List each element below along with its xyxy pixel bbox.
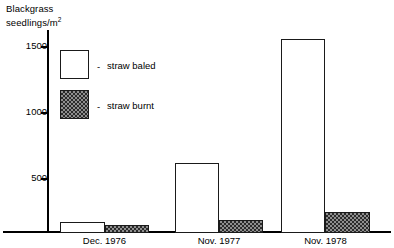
legend-dash: - [97, 62, 100, 72]
legend-label-straw-baled: straw baled [107, 60, 156, 71]
x-category-label-dec-1976: Dec. 1976 [60, 235, 149, 246]
bar-burnt-nov-1977 [219, 220, 263, 233]
legend-dash: - [97, 102, 100, 112]
x-category-label-nov-1977: Nov. 1977 [175, 235, 263, 246]
plot-area [0, 0, 394, 248]
bar-baled-dec-1976 [60, 222, 105, 233]
legend-swatch-straw-baled [60, 50, 89, 79]
bar-baled-nov-1977 [175, 163, 219, 233]
bar-burnt-nov-1978 [325, 212, 370, 233]
legend-swatch-straw-burnt [60, 90, 89, 119]
x-category-label-nov-1978: Nov. 1978 [281, 235, 370, 246]
bar-chart-figure: Blackgrassseedlings/m2 1500 1000 500 Dec… [0, 0, 394, 248]
bar-baled-nov-1978 [281, 39, 325, 233]
bar-burnt-dec-1976 [105, 225, 149, 233]
legend-label-straw-burnt: straw burnt [107, 100, 154, 111]
